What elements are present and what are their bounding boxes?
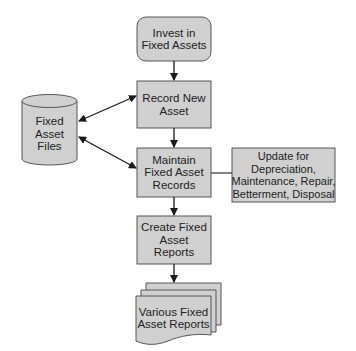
arrow-files-record: [79, 96, 136, 121]
update-node-label: Update for Depreciation, Maintenance, Re…: [230, 148, 337, 202]
arrow-files-maintain: [79, 137, 136, 168]
create-node-label: Create Fixed Asset Reports: [137, 216, 211, 264]
files-node-label: Fixed Asset Files: [22, 108, 77, 160]
maintain-node-label: Maintain Fixed Asset Records: [137, 148, 211, 197]
start-node-label: Invest in Fixed Assets: [137, 17, 211, 61]
reports-node-label: Various Fixed Asset Reports: [136, 300, 211, 336]
record-node-label: Record New Asset: [137, 81, 211, 128]
